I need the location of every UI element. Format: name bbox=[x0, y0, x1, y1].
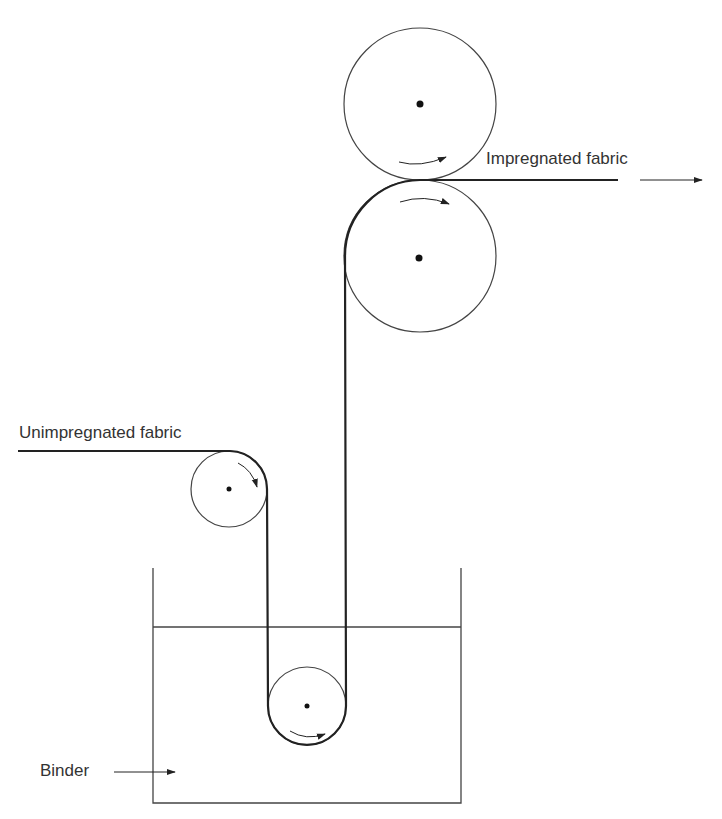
rotation-arrow-icon bbox=[399, 157, 446, 164]
unimpregnated-fabric-label: Unimpregnated fabric bbox=[19, 424, 182, 441]
fabric-path bbox=[18, 180, 618, 745]
impregnated-fabric-label: Impregnated fabric bbox=[486, 150, 628, 167]
diagram-graphics bbox=[0, 0, 722, 819]
roller-axle-icon bbox=[305, 704, 310, 709]
roller-axle-icon bbox=[417, 101, 424, 108]
rotation-arrow-icon bbox=[238, 463, 257, 487]
impregnation-diagram: Impregnated fabric Unimpregnated fabric … bbox=[0, 0, 722, 819]
binder-label: Binder bbox=[40, 762, 89, 779]
top-nip-roller bbox=[344, 28, 496, 180]
binder-tank bbox=[153, 568, 461, 803]
rotation-arrow-icon bbox=[290, 731, 325, 737]
rotation-arrow-icon bbox=[400, 198, 449, 204]
roller-axle-icon bbox=[416, 255, 423, 262]
roller-axle-icon bbox=[227, 487, 232, 492]
